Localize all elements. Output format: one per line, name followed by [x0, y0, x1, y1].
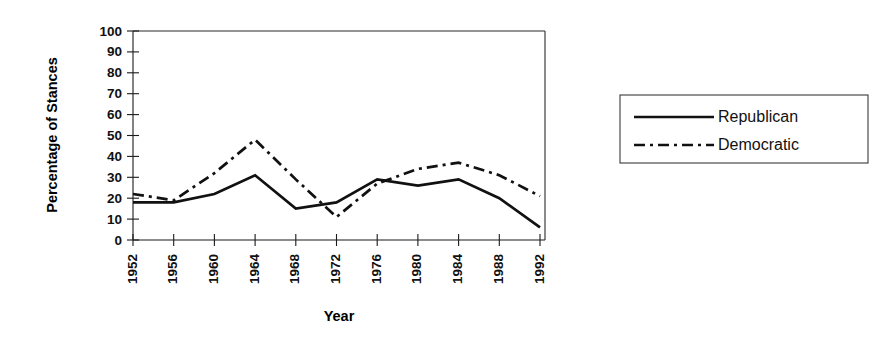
- legend-label-democratic: Democratic: [718, 136, 799, 153]
- x-tick-label: 1964: [247, 254, 262, 285]
- x-tick-label: 1960: [206, 254, 221, 284]
- y-axis-title: Percentage of Stances: [44, 57, 60, 213]
- y-tick-label: 100: [99, 24, 122, 39]
- y-tick-label: 0: [114, 233, 122, 248]
- x-axis-title: Year: [324, 308, 355, 324]
- x-axis-tick-labels: 1952195619601964196819721976198019841988…: [125, 254, 547, 285]
- y-tick-label: 90: [107, 44, 122, 59]
- y-axis-tick-labels: 0102030405060708090100: [99, 24, 122, 248]
- x-tick-label: 1992: [532, 254, 547, 284]
- x-tick-label: 1956: [165, 254, 180, 285]
- y-tick-label: 80: [107, 65, 122, 80]
- x-tick-label: 1980: [409, 254, 424, 284]
- chart-figure: 0102030405060708090100 19521956196019641…: [0, 0, 875, 347]
- y-tick-label: 60: [107, 107, 122, 122]
- chart-legend: Republican Democratic: [620, 95, 868, 163]
- legend-label-republican: Republican: [718, 108, 798, 125]
- x-tick-label: 1972: [328, 254, 343, 284]
- series-line-republican: [133, 175, 540, 227]
- x-tick-label: 1988: [491, 254, 506, 285]
- y-tick-label: 10: [107, 212, 122, 227]
- y-tick-label: 40: [107, 149, 122, 164]
- y-tick-label: 20: [107, 191, 122, 206]
- series-line-democratic: [133, 140, 540, 217]
- y-tick-label: 30: [107, 170, 122, 185]
- x-tick-label: 1984: [450, 254, 465, 285]
- x-tick-label: 1952: [125, 254, 140, 284]
- line-chart-svg: 0102030405060708090100 19521956196019641…: [0, 0, 875, 347]
- y-tick-label: 70: [107, 86, 122, 101]
- x-tick-label: 1968: [287, 254, 302, 285]
- y-tick-label: 50: [107, 128, 122, 143]
- x-tick-label: 1976: [369, 254, 384, 285]
